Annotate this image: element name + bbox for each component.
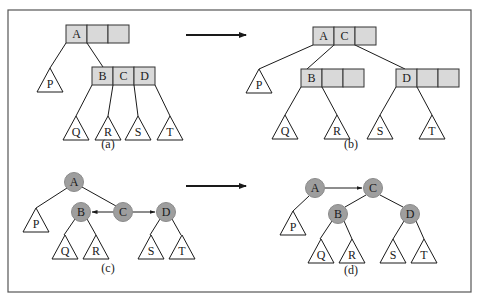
key-cell <box>355 27 376 45</box>
rb-node-b: B <box>329 205 348 224</box>
tree-edge <box>293 196 309 211</box>
rb-node-d: D <box>401 205 420 224</box>
subtree-q: Q <box>52 235 78 259</box>
subtree-t: T <box>169 235 195 259</box>
tree-edge <box>64 219 75 235</box>
rb-node-a: A <box>306 179 325 198</box>
tree-edge <box>344 221 352 239</box>
btree-redblack-diagram: PQRSTABCD PQRSTACBD PQRSTABCD PQRSTACBD … <box>0 0 480 302</box>
tree-edge <box>150 219 160 235</box>
tree-edge <box>134 85 138 116</box>
tree-edge <box>259 45 313 69</box>
subtree-q: Q <box>308 239 334 263</box>
key-label: A <box>319 29 328 43</box>
subtree-p: P <box>246 69 272 93</box>
key-label: D <box>402 71 411 85</box>
subtree-p: P <box>37 68 63 92</box>
node-label: B <box>77 205 85 219</box>
node-label: C <box>369 181 377 195</box>
node-label: A <box>311 181 320 195</box>
subtree-label: T <box>178 244 186 258</box>
panel-c-redblack-before: PQRSTABCD <box>23 173 195 260</box>
figure-frame <box>8 10 471 292</box>
subtree-t: T <box>157 116 183 140</box>
tree-edge <box>82 187 116 206</box>
transformation-arrows <box>186 35 246 186</box>
caption-b: (b) <box>344 137 358 151</box>
key-label: C <box>340 29 348 43</box>
subtree-label: S <box>390 248 397 262</box>
subtree-q: Q <box>63 116 89 140</box>
node-label: D <box>406 207 415 221</box>
rb-node-a: A <box>65 173 84 192</box>
panel-d-redblack-after: PQRSTACBD <box>280 179 437 264</box>
node-label: B <box>334 207 342 221</box>
rb-node-c: C <box>114 203 133 222</box>
subtree-label: P <box>47 77 54 91</box>
tree-edge <box>36 188 67 208</box>
key-cell <box>438 69 459 87</box>
subtree-label: S <box>377 124 384 138</box>
subtree-label: Q <box>281 124 290 138</box>
node-ac: AC <box>313 27 376 45</box>
tree-edge <box>155 85 170 116</box>
subtree-label: R <box>348 248 356 262</box>
subtree-t: T <box>419 115 445 139</box>
subtree-label: Q <box>72 125 81 139</box>
subtree-t: T <box>411 239 437 263</box>
subtree-r: R <box>83 235 109 259</box>
caption-d: (d) <box>344 263 358 277</box>
subtree-q: Q <box>272 115 298 139</box>
key-label: C <box>119 69 127 83</box>
subtree-label: P <box>33 217 40 231</box>
tree-edge <box>172 219 181 235</box>
rb-node-d: D <box>157 203 176 222</box>
subtree-r: R <box>339 239 365 263</box>
node-a: A <box>66 25 129 43</box>
subtree-label: S <box>135 125 142 139</box>
subtree-label: P <box>256 78 263 92</box>
tree-edge <box>320 221 332 239</box>
key-label: B <box>307 71 315 85</box>
key-cell <box>87 25 108 43</box>
tree-edge <box>380 87 396 115</box>
subtree-label: R <box>333 124 341 138</box>
key-cell <box>417 69 438 87</box>
panel-b-2-4-tree-after-split: PQRSTACBD <box>246 27 459 139</box>
tree-edge <box>307 45 334 69</box>
key-cell <box>108 25 129 43</box>
subtree-r: R <box>324 115 350 139</box>
panel-a-2-4-tree-before: PQRSTABCD <box>37 25 183 140</box>
tree-edge <box>393 221 404 239</box>
subtree-label: Q <box>317 248 326 262</box>
subtree-s: S <box>125 116 151 140</box>
tree-edge <box>417 87 432 115</box>
subtree-p: P <box>280 211 306 235</box>
subtree-s: S <box>380 239 406 263</box>
tree-edge <box>285 87 301 115</box>
subtree-label: T <box>428 124 436 138</box>
key-label: B <box>98 69 106 83</box>
subtree-p: P <box>23 208 49 232</box>
tree-edge <box>87 219 96 235</box>
tree-edge <box>108 85 113 116</box>
subtree-label: T <box>420 248 428 262</box>
key-cell <box>322 69 343 87</box>
tree-edge <box>50 43 66 68</box>
caption-c: (c) <box>101 261 114 275</box>
tree-edge <box>87 43 103 67</box>
subtree-label: P <box>290 220 297 234</box>
tree-edge <box>355 45 405 69</box>
subtree-s: S <box>138 235 164 259</box>
subtree-label: R <box>92 244 100 258</box>
subtree-label: Q <box>61 244 70 258</box>
subtree-label: T <box>166 125 174 139</box>
tree-edge <box>380 195 403 207</box>
rb-node-b: B <box>72 203 91 222</box>
caption-a: (a) <box>101 137 114 151</box>
tree-edge <box>76 85 92 116</box>
subtree-s: S <box>367 115 393 139</box>
node-label: D <box>162 205 171 219</box>
node-label: A <box>70 175 79 189</box>
node-label: C <box>119 205 127 219</box>
